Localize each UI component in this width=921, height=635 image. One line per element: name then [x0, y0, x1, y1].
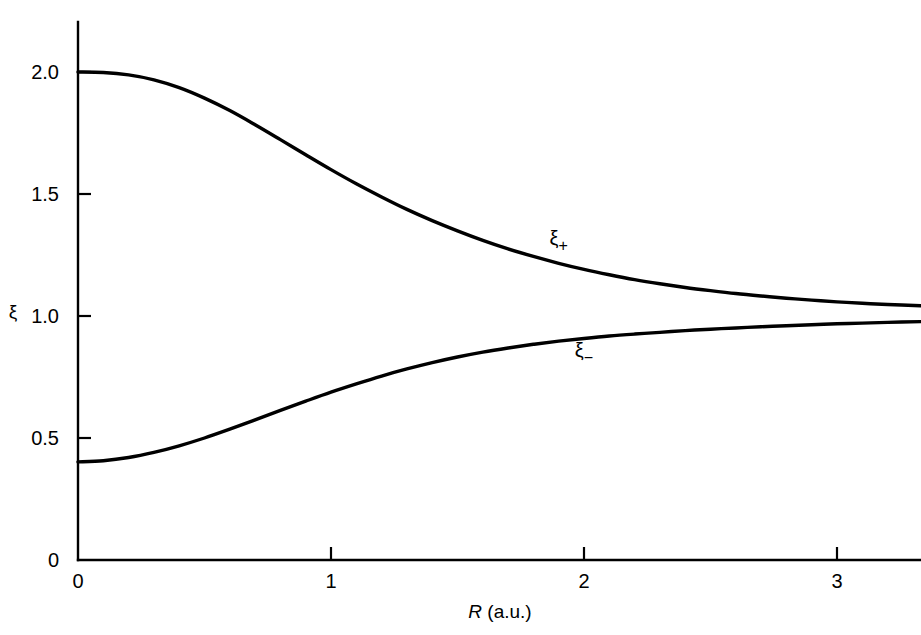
y-tick-label: 0 — [48, 549, 59, 571]
y-tick-label: 0.5 — [31, 427, 59, 449]
x-axis-ticks: 0123 — [72, 547, 842, 592]
x-tick-label: 3 — [831, 570, 842, 592]
x-tick-label: 2 — [578, 570, 589, 592]
data-curve-xi-plus — [78, 72, 920, 306]
curve-label-symbol: ξ — [575, 339, 584, 361]
data-curves — [78, 72, 920, 462]
y-tick-label: 1.0 — [31, 305, 59, 327]
y-tick-label: 2.0 — [31, 61, 59, 83]
figure-container: 00.51.01.52.0 0123 ξ+ξ− ξ R (a.u.) — [0, 0, 921, 635]
chart-canvas: 00.51.01.52.0 0123 ξ+ξ− ξ R (a.u.) — [0, 0, 921, 635]
y-axis-label: ξ — [9, 301, 18, 322]
curve-label-symbol: ξ — [550, 227, 559, 249]
curve-label-xi-minus: ξ− — [575, 339, 593, 366]
y-axis-ticks: 00.51.01.52.0 — [31, 61, 91, 571]
x-tick-label: 1 — [325, 570, 336, 592]
curve-label-subscript: + — [559, 237, 568, 254]
x-axis-label-symbol: R — [468, 601, 482, 622]
curve-label-xi-plus: ξ+ — [550, 227, 568, 254]
curve-annotations: ξ+ξ− — [550, 227, 594, 366]
x-axis-label-units: (a.u.) — [482, 601, 532, 622]
y-tick-label: 1.5 — [31, 183, 59, 205]
x-tick-label: 0 — [72, 570, 83, 592]
data-curve-xi-minus — [78, 322, 920, 462]
axes-group — [78, 22, 921, 560]
curve-label-subscript: − — [584, 349, 593, 366]
x-axis-label: R (a.u.) — [468, 601, 531, 622]
